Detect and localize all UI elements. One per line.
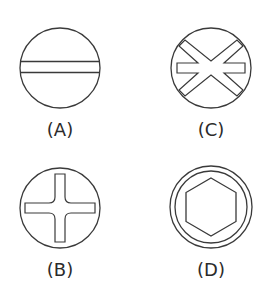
hex-socket-screw-head-icon [151, 140, 267, 260]
frearson-star-screw-head-icon [151, 0, 267, 120]
label-a: (A) [0, 119, 120, 140]
phillips-screw-head-icon [0, 140, 120, 260]
slotted-screw-head-icon [0, 0, 120, 120]
label-d: (D) [151, 259, 267, 280]
screw-head-d: (D) [151, 140, 267, 280]
screw-head-a: (A) [0, 0, 120, 140]
label-b: (B) [0, 259, 120, 280]
screw-head-b: (B) [0, 140, 120, 280]
label-c: (C) [151, 119, 267, 140]
screw-head-c: (C) [151, 0, 267, 140]
